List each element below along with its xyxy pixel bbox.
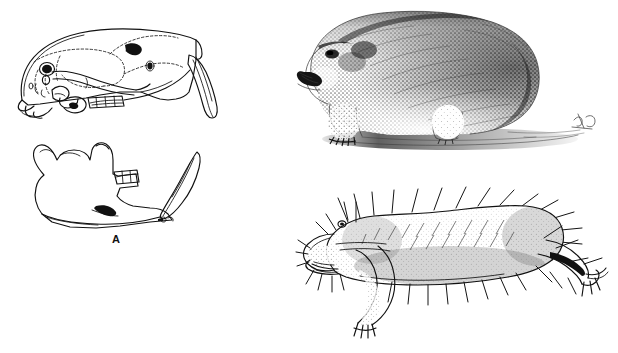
upper-incisor-blade xyxy=(188,55,217,118)
orbit-foramen xyxy=(29,63,55,98)
panel-c-naked-mole-rat: C xyxy=(300,178,618,353)
mandible-outline xyxy=(33,143,172,228)
lower-toothrow xyxy=(114,170,139,184)
rostrum-edge xyxy=(196,40,202,59)
infraorbital-foramen xyxy=(125,43,154,71)
panel-b-artwork xyxy=(278,0,618,172)
upper-toothrow xyxy=(88,96,124,108)
figure-plate: A xyxy=(0,0,618,353)
panel-c-artwork xyxy=(300,178,618,353)
fore-foot xyxy=(354,323,376,338)
panel-a-skull-mandible: A xyxy=(0,0,300,260)
squamosal-process xyxy=(52,86,86,113)
panel-label-a: A xyxy=(112,234,120,245)
lower-incisor-blade xyxy=(160,152,200,219)
artist-monogram xyxy=(572,114,595,129)
panel-a-artwork xyxy=(0,0,300,260)
panel-b-mole-rat-engraving: B xyxy=(278,0,618,172)
angular-process-shading xyxy=(92,205,118,216)
